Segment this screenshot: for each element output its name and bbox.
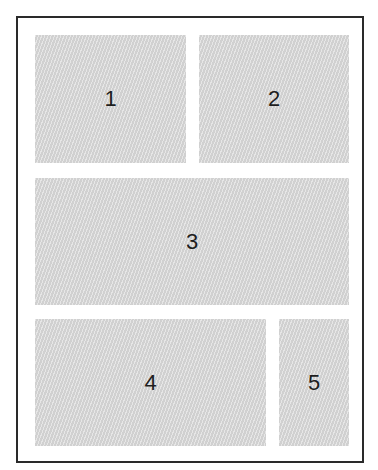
layout-box-3: 3 [35, 178, 349, 305]
box-label-1: 1 [104, 86, 116, 112]
box-label-2: 2 [268, 86, 280, 112]
layout-box-1: 1 [35, 35, 186, 163]
box-label-4: 4 [144, 370, 156, 396]
box-label-3: 3 [186, 229, 198, 255]
box-label-5: 5 [308, 370, 320, 396]
layout-box-2: 2 [199, 35, 349, 163]
layout-box-4: 4 [35, 319, 266, 446]
layout-box-5: 5 [279, 319, 349, 446]
